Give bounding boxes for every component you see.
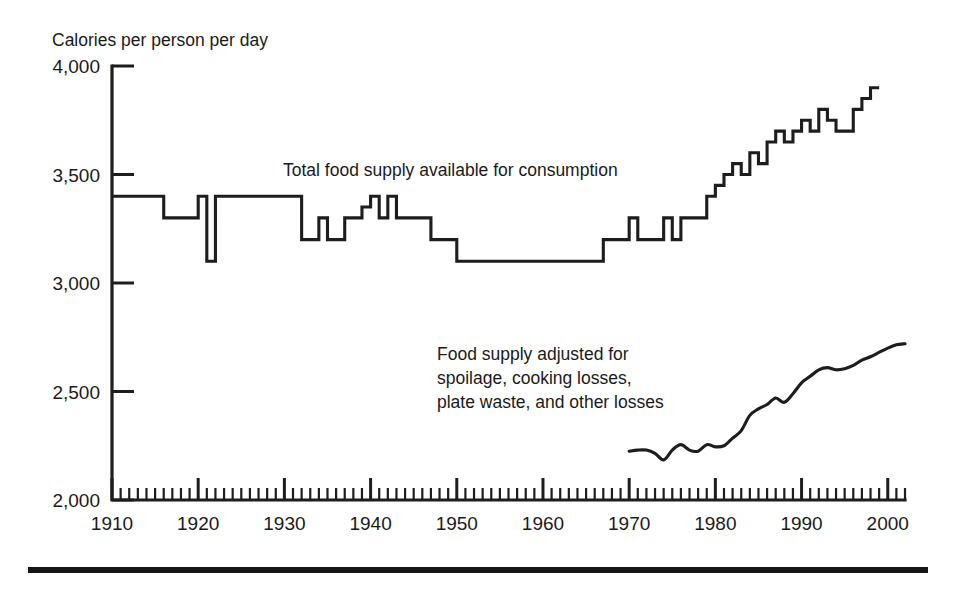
x-axis-tick-label: 1950: [436, 513, 478, 534]
upper-series-label: Total food supply available for consumpt…: [283, 160, 618, 180]
axis-lines: [112, 66, 905, 500]
x-axis-tick-label: 1980: [694, 513, 736, 534]
y-axis-tick-labels: 2,0002,5003,0003,5004,000: [52, 56, 100, 511]
bottom-rule-divider: [28, 567, 928, 573]
x-axis-tick-labels: 1910192019301940195019601970198019902000: [91, 513, 909, 534]
y-axis-tick-label: 4,000: [52, 56, 100, 77]
lower-series-label-line1: Food supply adjusted for: [437, 344, 629, 364]
x-axis-tick-label: 1960: [522, 513, 564, 534]
chart-figure: Calories per person per day 2,0002,5003,…: [0, 0, 955, 590]
y-axis-ticks: [112, 66, 134, 500]
calories-per-person-line-chart: Calories per person per day 2,0002,5003,…: [0, 0, 955, 590]
y-axis-tick-label: 2,500: [52, 382, 100, 403]
x-axis-tick-label: 1920: [177, 513, 219, 534]
y-axis-tick-label: 2,000: [52, 490, 100, 511]
axis-group: 2,0002,5003,0003,5004,000 19101920193019…: [52, 56, 908, 534]
y-axis-tick-label: 3,000: [52, 273, 100, 294]
series-annotations: Total food supply available for consumpt…: [283, 160, 664, 412]
x-axis-tick-label: 1940: [349, 513, 391, 534]
y-axis-tick-label: 3,500: [52, 165, 100, 186]
x-axis-tick-label: 2000: [867, 513, 909, 534]
x-axis-tick-label: 1910: [91, 513, 133, 534]
y-axis-title: Calories per person per day: [52, 30, 268, 50]
x-axis-tick-label: 1990: [780, 513, 822, 534]
x-axis-minor-ticks: [121, 488, 905, 500]
x-axis-tick-label: 1970: [608, 513, 650, 534]
lower-series-label-line2: spoilage, cooking losses,: [437, 368, 632, 388]
series-adjusted-food-supply: [629, 344, 905, 460]
lower-series-label-line3: plate waste, and other losses: [437, 392, 664, 412]
x-axis-tick-label: 1930: [263, 513, 305, 534]
